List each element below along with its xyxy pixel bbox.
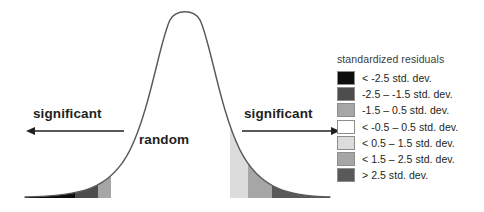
legend-item: < 1.5 – 2.5 std. dev.: [337, 151, 482, 167]
legend-item-label: < 0.5 – 1.5 std. dev.: [362, 137, 455, 149]
legend: standardized residuals < -2.5 std. dev. …: [337, 53, 482, 183]
legend-title: standardized residuals: [337, 53, 482, 65]
arrow-left-icon: [26, 124, 126, 138]
legend-item-label: < -2.5 std. dev.: [362, 72, 432, 84]
legend-swatch-icon: [337, 71, 355, 85]
label-significant-right: significant: [244, 106, 313, 121]
legend-item-label: < 1.5 – 2.5 std. dev.: [362, 153, 455, 165]
legend-swatch-icon: [337, 136, 355, 150]
label-significant-left: significant: [33, 106, 102, 121]
legend-item: -2.5 – -1.5 std. dev.: [337, 86, 482, 102]
arrow-right-icon: [240, 124, 340, 138]
legend-item: < -2.5 std. dev.: [337, 70, 482, 86]
legend-item: > 2.5 std. dev.: [337, 167, 482, 183]
label-random: random: [139, 132, 189, 147]
band-center-random: [111, 0, 230, 212]
legend-item: -1.5 – 0.5 std. dev.: [337, 102, 482, 118]
legend-item-label: < -0.5 – 0.5 std. dev.: [362, 121, 458, 133]
legend-swatch-icon: [337, 87, 355, 101]
bell-curve-plot: significant random significant: [0, 0, 340, 212]
distribution-figure: significant random significant standardi…: [0, 0, 484, 212]
legend-item-label: > 2.5 std. dev.: [362, 169, 428, 181]
legend-swatch-icon: [337, 168, 355, 182]
legend-item-label: -2.5 – -1.5 std. dev.: [362, 88, 453, 100]
legend-swatch-icon: [337, 120, 355, 134]
legend-item-label: -1.5 – 0.5 std. dev.: [362, 104, 449, 116]
legend-item: < -0.5 – 0.5 std. dev.: [337, 119, 482, 135]
legend-swatch-icon: [337, 103, 355, 117]
legend-swatch-icon: [337, 152, 355, 166]
legend-item: < 0.5 – 1.5 std. dev.: [337, 135, 482, 151]
